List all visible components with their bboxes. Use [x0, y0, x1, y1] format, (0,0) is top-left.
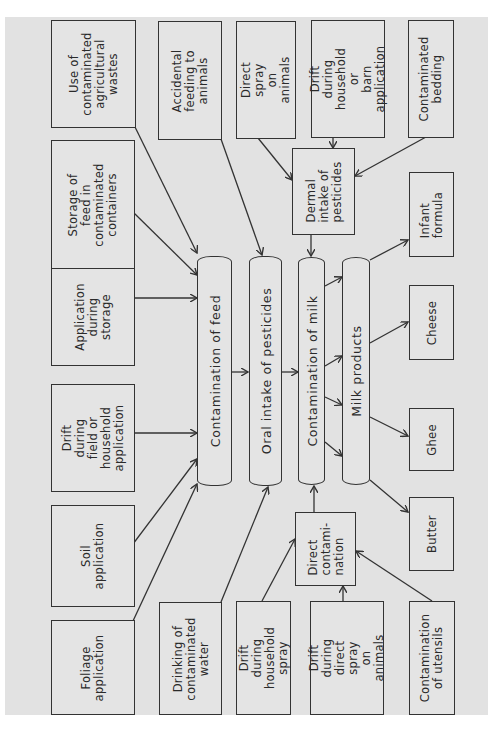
label-oral-intake: Oral intake of pesticides — [259, 288, 272, 455]
label-ghee: Ghee — [425, 424, 438, 456]
node-contamination-of-feed: Contamination of feed — [197, 256, 232, 486]
label-agri-wastes: Use of contaminated agricultural wastes — [68, 32, 120, 115]
label-drift-barn: Drift during household or barn applicati… — [309, 46, 387, 113]
box-drift-field: Drift during field or household applicat… — [51, 384, 135, 492]
label-butter: Butter — [425, 515, 438, 553]
label-direct-contamination: Direct contami- nation — [306, 522, 345, 575]
box-soil: Soil application — [51, 505, 135, 607]
label-bedding: Contaminated bedding — [418, 36, 444, 121]
box-accidental-feeding: Accidental feeding to animals — [158, 21, 222, 140]
box-drift-barn: Drift during household or barn applicati… — [311, 20, 385, 138]
label-app-storage: Application during storage — [74, 283, 113, 351]
label-accidental-feeding: Accidental feeding to animals — [171, 49, 210, 112]
box-agri-wastes: Use of contaminated agricultural wastes — [51, 20, 136, 128]
label-contamination-of-milk: Contamination of milk — [305, 296, 318, 447]
label-milk-products: Milk products — [350, 325, 363, 416]
label-drinking-water: Drinking of contaminated water — [171, 617, 210, 700]
label-foliage: Foliage application — [80, 634, 106, 701]
label-drift-direct-spray: Drift during direct spray on animals — [308, 634, 386, 681]
box-ghee: Ghee — [409, 408, 454, 471]
label-utensils: Contamination of utensils — [419, 614, 445, 703]
label-storage-containers: Storage of feed in contaminated containe… — [67, 163, 119, 246]
box-direct-spray: Direct spray on animals — [236, 21, 296, 139]
label-infant-formula: Infant formula — [419, 191, 445, 237]
box-drinking-water: Drinking of contaminated water — [159, 602, 222, 715]
node-contamination-of-milk: Contamination of milk — [298, 257, 325, 485]
box-drift-direct-spray: Drift during direct spray on animals — [310, 601, 384, 715]
box-bedding: Contaminated bedding — [408, 20, 454, 138]
node-oral-intake: Oral intake of pesticides — [249, 256, 282, 486]
label-cheese: Cheese — [425, 300, 438, 344]
node-milk-products: Milk products — [342, 257, 370, 485]
box-storage-containers: Storage of feed in contaminated containe… — [51, 140, 135, 270]
label-soil: Soil application — [80, 523, 106, 590]
box-drift-household-spray: Drift during household spray — [236, 601, 291, 715]
box-foliage: Foliage application — [51, 620, 135, 715]
label-drift-field: Drift during field or household applicat… — [61, 405, 126, 472]
label-contamination-of-feed: Contamination of feed — [208, 295, 221, 447]
box-app-storage: Application during storage — [51, 268, 135, 366]
label-dermal-intake: Dermal intake of pesticides — [304, 161, 343, 222]
node-direct-contamination: Direct contami- nation — [295, 512, 356, 586]
node-dermal-intake: Dermal intake of pesticides — [292, 148, 355, 235]
box-infant-formula: Infant formula — [409, 172, 454, 257]
label-direct-spray: Direct spray on animals — [240, 56, 292, 103]
box-utensils: Contamination of utensils — [409, 601, 455, 715]
box-butter: Butter — [409, 497, 454, 571]
label-drift-household-spray: Drift during household spray — [238, 627, 290, 689]
box-cheese: Cheese — [409, 285, 454, 360]
